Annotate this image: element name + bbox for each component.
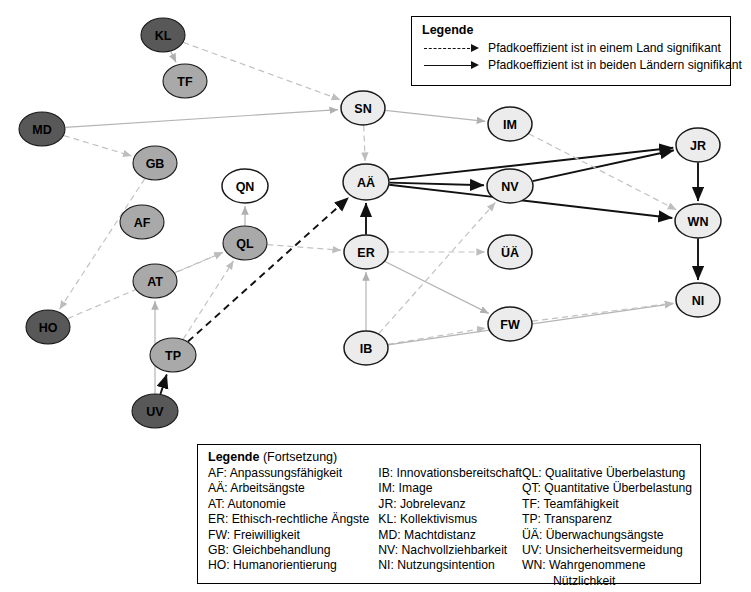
node-label-IB: IB bbox=[360, 342, 373, 356]
legend-abbr-item: MD: Machtdistanz bbox=[378, 528, 522, 543]
node-IB[interactable]: IB bbox=[344, 331, 388, 365]
node-ER[interactable]: ER bbox=[344, 235, 388, 269]
node-AA[interactable]: AÄ bbox=[343, 164, 389, 200]
edge-GB-to-HO bbox=[60, 179, 145, 310]
node-UV[interactable]: UV bbox=[132, 394, 178, 428]
legend-box-top: Legende Pfadkoeffizient ist in einem Lan… bbox=[411, 16, 731, 86]
legend-abbr-item: ER: Ethisch-rechtliche Ängste bbox=[208, 512, 378, 527]
edge-IB-to-NV bbox=[379, 203, 496, 334]
legend-top-title: Legende bbox=[422, 23, 722, 38]
node-label-JR: JR bbox=[690, 139, 706, 153]
node-label-TF: TF bbox=[177, 75, 193, 89]
edge-QL-to-ER bbox=[267, 245, 341, 250]
legend-abbr-item: IB: Innovationsbereitschaft bbox=[378, 466, 522, 481]
legend-abbr-item-continuation: Nützlichkeit bbox=[522, 574, 692, 589]
node-label-NI: NI bbox=[692, 294, 705, 308]
node-label-KL: KL bbox=[155, 29, 172, 43]
edge-IM-to-WN bbox=[529, 134, 677, 210]
legend-abbr-item: FW: Freiwilligkeit bbox=[208, 528, 378, 543]
node-label-UAE: ÜÄ bbox=[501, 245, 519, 260]
edge-TP-to-AA bbox=[188, 198, 349, 342]
edge-SN-to-IM bbox=[385, 110, 485, 121]
edge-AA-to-JR bbox=[389, 148, 673, 180]
edge-MD-to-GB bbox=[64, 136, 132, 156]
legend-top-label-1: Pfadkoeffizient ist in beiden Ländern si… bbox=[488, 57, 742, 74]
legend-abbr-item: KL: Kollektivismus bbox=[378, 512, 522, 527]
node-NI[interactable]: NI bbox=[676, 283, 720, 317]
node-JR[interactable]: JR bbox=[676, 128, 720, 162]
legend-abbr-item: IM: Image bbox=[378, 481, 522, 496]
legend-column-3: QL: Qualitative ÜberbelastungQT: Quantit… bbox=[522, 466, 692, 589]
legend-abbr-item: NI: Nutzungsintention bbox=[378, 558, 522, 573]
legend-row-both-countries: Pfadkoeffizient ist in beiden Ländern si… bbox=[422, 57, 722, 74]
edge-MD-to-SN bbox=[65, 110, 338, 128]
edge-IB-to-FW bbox=[388, 328, 486, 344]
diagram-canvas: KLTFMDGBAFATHOTPUVQNQLSNAÄERIBIMNVÜÄFWJR… bbox=[0, 0, 751, 592]
node-AT[interactable]: AT bbox=[133, 264, 177, 298]
legend-abbr-item: AÄ: Arbeitsängste bbox=[208, 481, 378, 496]
legend-abbr-item: ÜÄ: Überwachungsängste bbox=[522, 528, 692, 543]
node-label-IM: IM bbox=[503, 118, 517, 132]
node-label-TP: TP bbox=[165, 349, 181, 363]
node-TP[interactable]: TP bbox=[150, 338, 196, 372]
node-label-QN: QN bbox=[236, 180, 255, 194]
legend-box-bottom: Legende (Fortsetzung) AF: Anpassungsfähi… bbox=[197, 444, 701, 584]
legend-abbr-item: NV: Nachvollziehbarkeit bbox=[378, 543, 522, 558]
node-label-MD: MD bbox=[32, 123, 51, 137]
edge-TP-to-QL bbox=[183, 261, 233, 339]
node-label-QL: QL bbox=[236, 237, 254, 251]
node-TF[interactable]: TF bbox=[163, 64, 207, 98]
legend-abbr-item: WN: Wahrgenommene bbox=[522, 558, 692, 573]
node-UAE[interactable]: ÜÄ bbox=[488, 235, 532, 269]
node-MD[interactable]: MD bbox=[19, 112, 65, 146]
legend-abbr-item: QT: Quantitative Überbelastung bbox=[522, 481, 692, 496]
node-IM[interactable]: IM bbox=[488, 107, 532, 141]
node-QN[interactable]: QN bbox=[222, 169, 268, 203]
legend-abbr-item: TF: Teamfähigkeit bbox=[522, 497, 692, 512]
legend-bottom-title-bold: Legende bbox=[208, 450, 259, 464]
legend-abbr-item: GB: Gleichbehandlung bbox=[208, 543, 378, 558]
node-AF[interactable]: AF bbox=[120, 205, 164, 239]
legend-abbr-item: UV: Unsicherheitsvermeidung bbox=[522, 543, 692, 558]
legend-bottom-title-rest: (Fortsetzung) bbox=[259, 450, 337, 464]
edge-UV-to-TP bbox=[160, 374, 166, 394]
solid-arrow-icon bbox=[422, 57, 488, 74]
node-label-HO: HO bbox=[39, 321, 58, 335]
legend-bottom-title: Legende (Fortsetzung) bbox=[208, 450, 692, 465]
node-label-AT: AT bbox=[147, 275, 163, 289]
node-label-ER: ER bbox=[357, 246, 374, 260]
node-HO[interactable]: HO bbox=[26, 310, 70, 344]
node-NV[interactable]: NV bbox=[487, 169, 533, 203]
legend-abbr-item: AF: Anpassungsfähigkeit bbox=[208, 466, 378, 481]
legend-abbr-item: HO: Humanorientierung bbox=[208, 558, 378, 573]
edge-AA-to-NV bbox=[389, 183, 484, 186]
edge-FW-to-NI bbox=[532, 303, 673, 321]
legend-row-one-country: Pfadkoeffizient ist in einem Land signif… bbox=[422, 40, 722, 57]
node-WN[interactable]: WN bbox=[675, 204, 721, 238]
legend-column-1: AF: AnpassungsfähigkeitAÄ: Arbeitsängste… bbox=[208, 466, 378, 589]
node-KL[interactable]: KL bbox=[141, 18, 185, 52]
node-GB[interactable]: GB bbox=[133, 146, 177, 180]
node-FW[interactable]: FW bbox=[488, 307, 532, 341]
node-label-GB: GB bbox=[146, 157, 165, 171]
dashed-arrow-icon bbox=[422, 40, 488, 57]
node-SN[interactable]: SN bbox=[341, 91, 385, 125]
node-label-WN: WN bbox=[688, 215, 709, 229]
node-label-UV: UV bbox=[146, 405, 164, 419]
legend-top-label-0: Pfadkoeffizient ist in einem Land signif… bbox=[488, 40, 721, 57]
legend-abbr-item: QL: Qualitative Überbelastung bbox=[522, 466, 692, 481]
edge-KL-to-TF bbox=[171, 51, 176, 62]
legend-abbr-item: TP: Transparenz bbox=[522, 512, 692, 527]
legend-abbr-item: AT: Autonomie bbox=[208, 497, 378, 512]
node-label-NV: NV bbox=[501, 180, 519, 194]
node-label-SN: SN bbox=[354, 102, 371, 116]
edge-KL-to-SN bbox=[183, 42, 340, 99]
edge-ER-to-FW bbox=[385, 261, 489, 313]
node-QL[interactable]: QL bbox=[223, 226, 267, 260]
legend-column-2: IB: InnovationsbereitschaftIM: ImageJR: … bbox=[378, 466, 522, 589]
legend-abbr-item: JR: Jobrelevanz bbox=[378, 497, 522, 512]
node-label-AA: AÄ bbox=[357, 175, 375, 190]
node-label-AF: AF bbox=[134, 216, 151, 230]
node-label-FW: FW bbox=[500, 318, 520, 332]
edge-SN-to-AA bbox=[364, 125, 365, 161]
